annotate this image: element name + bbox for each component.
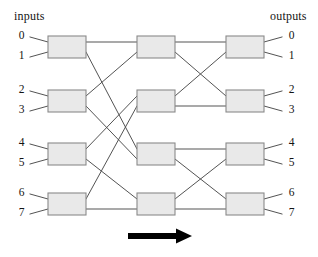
- input-port-label-4: 4: [16, 136, 27, 148]
- wire-layer: [30, 37, 282, 214]
- input-port-label-2: 2: [16, 83, 27, 95]
- switch-box-stage2-row0[interactable]: [226, 36, 264, 58]
- input-wire-4: [30, 144, 48, 149]
- network-svg-canvas: [0, 0, 318, 257]
- switch-box-stage1-row2[interactable]: [137, 143, 175, 165]
- output-wire-0: [264, 37, 282, 42]
- output-port-label-1: 1: [286, 49, 297, 61]
- input-port-label-7: 7: [16, 206, 27, 218]
- input-wire-0: [30, 37, 48, 42]
- switch-box-stage0-row3[interactable]: [48, 193, 86, 215]
- link-stage0-stage1-s0-3-s1-1-6: [86, 106, 137, 199]
- switch-box-stage1-row1[interactable]: [137, 90, 175, 112]
- switch-box-stage1-row0[interactable]: [137, 36, 175, 58]
- input-port-label-1: 1: [16, 49, 27, 61]
- input-wire-6: [30, 194, 48, 199]
- output-port-label-4: 4: [286, 136, 297, 148]
- output-port-label-6: 6: [286, 186, 297, 198]
- output-wire-6: [264, 194, 282, 199]
- output-port-label-3: 3: [286, 103, 297, 115]
- output-port-label-7: 7: [286, 206, 297, 218]
- switch-box-stage0-row1[interactable]: [48, 90, 86, 112]
- link-stage0-stage1-s0-1-s1-2-3: [86, 106, 137, 159]
- output-wire-3: [264, 106, 282, 111]
- switch-box-stage1-row3[interactable]: [137, 193, 175, 215]
- link-stage0-stage1-s0-0-s1-2-1: [86, 52, 137, 149]
- switch-layer: [48, 36, 264, 215]
- input-wire-1: [30, 52, 48, 57]
- link-stage0-stage1-s0-2-s1-3-5: [86, 159, 137, 199]
- input-wire-7: [30, 209, 48, 214]
- input-wire-2: [30, 91, 48, 96]
- output-wire-5: [264, 159, 282, 164]
- right-arrow-icon: [128, 229, 192, 244]
- flow-arrow-layer: [128, 229, 192, 244]
- switch-box-stage2-row3[interactable]: [226, 193, 264, 215]
- output-wire-7: [264, 209, 282, 214]
- switch-box-stage0-row2[interactable]: [48, 143, 86, 165]
- output-wire-1: [264, 52, 282, 57]
- input-wire-5: [30, 159, 48, 164]
- output-port-label-2: 2: [286, 83, 297, 95]
- output-port-label-0: 0: [286, 29, 297, 41]
- switch-box-stage2-row2[interactable]: [226, 143, 264, 165]
- input-port-label-3: 3: [16, 103, 27, 115]
- link-stage0-stage1-s0-2-s1-1-4: [86, 96, 137, 149]
- input-port-label-0: 0: [16, 29, 27, 41]
- link-stage0-stage1-s0-1-s1-0-2: [86, 52, 137, 96]
- output-wire-4: [264, 144, 282, 149]
- output-wire-2: [264, 91, 282, 96]
- input-wire-3: [30, 106, 48, 111]
- output-port-label-5: 5: [286, 156, 297, 168]
- network-diagram-figure: inputs outputs 0123456701234567: [0, 0, 318, 257]
- input-port-label-5: 5: [16, 156, 27, 168]
- input-port-label-6: 6: [16, 186, 27, 198]
- switch-box-stage2-row1[interactable]: [226, 90, 264, 112]
- switch-box-stage0-row0[interactable]: [48, 36, 86, 58]
